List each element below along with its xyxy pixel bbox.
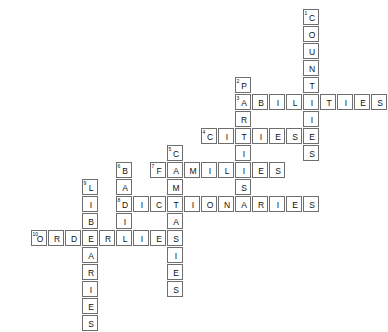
crossword-cell[interactable]: 6B [116,162,132,178]
crossword-cell[interactable]: M [167,179,183,195]
crossword-cell[interactable]: A [167,213,183,229]
crossword-cell[interactable]: E [82,230,98,246]
crossword-cell[interactable]: I [201,162,217,178]
crossword-cell[interactable]: I [133,196,149,212]
crossword-cell[interactable]: L [286,94,302,110]
crossword-cell[interactable]: I [167,247,183,263]
cell-letter: I [304,95,320,111]
cell-letter: D [66,231,82,247]
crossword-cell[interactable]: T [320,94,336,110]
crossword-cell[interactable]: 1C [303,9,319,25]
crossword-cell[interactable]: S [303,196,319,212]
crossword-cell[interactable]: 3A [235,94,251,110]
crossword-cell[interactable]: I [235,145,251,161]
crossword-cell[interactable]: S [235,179,251,195]
cell-letter: S [83,316,99,332]
crossword-cell[interactable]: I [303,111,319,127]
crossword-cell[interactable]: 2P [235,77,251,93]
cell-letter: I [134,197,150,213]
crossword-cell[interactable]: N [303,60,319,76]
crossword-cell[interactable]: S [167,281,183,297]
cell-letter: T [321,95,337,111]
crossword-cell[interactable]: I [269,94,285,110]
crossword-cell[interactable]: R [48,230,64,246]
cell-letter: I [83,197,99,213]
crossword-cell[interactable]: T [167,196,183,212]
crossword-cell[interactable]: I [82,281,98,297]
crossword-cell[interactable]: 5C [167,145,183,161]
crossword-cell[interactable]: I [252,128,268,144]
cell-letter: S [304,146,320,162]
crossword-cell[interactable]: T [303,77,319,93]
crossword-cell[interactable]: I [337,94,353,110]
crossword-cell[interactable]: B [252,94,268,110]
crossword-cell[interactable]: C [150,196,166,212]
crossword-cell[interactable]: O [303,26,319,42]
crossword-cell[interactable]: R [82,264,98,280]
crossword-cell[interactable]: D [65,230,81,246]
crossword-cell[interactable]: R [235,111,251,127]
cell-letter: I [270,197,286,213]
crossword-cell[interactable]: N [218,196,234,212]
crossword-cell[interactable]: I [269,196,285,212]
crossword-cell[interactable]: I [116,213,132,229]
crossword-cell[interactable]: M [184,162,200,178]
crossword-cell[interactable]: L [218,162,234,178]
crossword-cell[interactable]: S [303,145,319,161]
crossword-cell[interactable]: E [286,196,302,212]
cell-letter: A [117,180,133,196]
crossword-cell[interactable]: 4C [201,128,217,144]
crossword-cell[interactable]: R [252,196,268,212]
cell-letter: T [168,197,184,213]
cell-letter: I [117,214,133,230]
crossword-cell[interactable]: E [269,128,285,144]
crossword-cell[interactable]: E [303,128,319,144]
crossword-cell[interactable]: I [133,230,149,246]
crossword-cell[interactable]: A [82,247,98,263]
crossword-cell[interactable]: S [286,128,302,144]
cell-letter: S [236,180,252,196]
crossword-cell[interactable]: B [82,213,98,229]
crossword-cell[interactable]: T [235,128,251,144]
cell-letter: A [168,214,184,230]
cell-letter: S [287,129,303,145]
crossword-cell[interactable]: E [252,162,268,178]
crossword-cell[interactable]: 9L [82,179,98,195]
crossword-cell[interactable]: E [167,264,183,280]
crossword-cell[interactable]: 8D [116,196,132,212]
crossword-cell[interactable]: R [99,230,115,246]
cell-letter: I [202,163,218,179]
crossword-cell[interactable]: E [354,94,370,110]
crossword-cell[interactable]: I [82,196,98,212]
crossword-cell[interactable]: I [235,162,251,178]
crossword-cell[interactable]: A [235,196,251,212]
crossword-cell[interactable]: L [116,230,132,246]
cell-letter: A [236,197,252,213]
cell-letter: R [100,231,116,247]
crossword-cell[interactable]: S [82,315,98,331]
crossword-cell[interactable]: E [82,298,98,314]
crossword-cell[interactable]: I [218,128,234,144]
cell-letter: I [236,146,252,162]
crossword-cell[interactable]: A [116,179,132,195]
crossword-cell[interactable]: S [371,94,387,110]
crossword-cell[interactable]: S [269,162,285,178]
crossword-cell[interactable]: A [167,162,183,178]
cell-letter: E [270,129,286,145]
crossword-cell[interactable]: O [201,196,217,212]
crossword-cell[interactable]: I [303,94,319,110]
cell-letter: N [304,61,320,77]
cell-letter: U [304,44,320,60]
cell-letter: I [219,129,235,145]
crossword-cell[interactable]: S [167,230,183,246]
crossword-cell[interactable]: 7F [150,162,166,178]
cell-letter: E [355,95,371,111]
crossword-cell[interactable]: I [184,196,200,212]
crossword-cell[interactable]: 10O [31,230,47,246]
crossword-cell[interactable]: E [150,230,166,246]
cell-letter: L [219,163,235,179]
cell-letter: M [185,163,201,179]
cell-letter: L [117,231,133,247]
crossword-cell[interactable]: U [303,43,319,59]
